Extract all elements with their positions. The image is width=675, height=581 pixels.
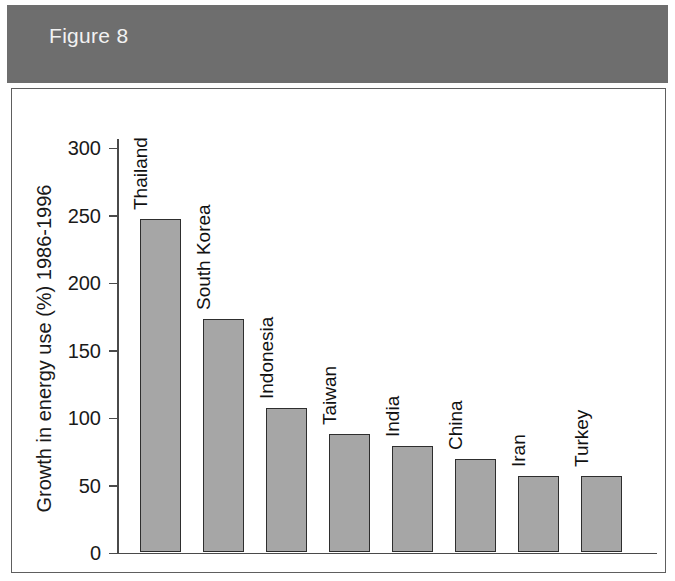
y-tick-label: 50 — [79, 474, 101, 497]
y-tick-250: 250 — [109, 215, 118, 217]
bar-label: Thailand — [130, 137, 152, 210]
y-tick-label: 200 — [68, 272, 101, 295]
figure-header-band: Figure 8 — [7, 5, 668, 83]
y-tick-50: 50 — [109, 485, 118, 487]
y-tick-label: 250 — [68, 204, 101, 227]
bar-south-korea[interactable]: South Korea — [203, 319, 244, 553]
bar-label: China — [445, 401, 467, 451]
bar-indonesia[interactable]: Indonesia — [266, 408, 307, 552]
y-tick-300: 300 — [109, 148, 118, 150]
y-tick-0: 0 — [109, 553, 118, 555]
bar-label: Indonesia — [256, 317, 278, 399]
y-axis-line — [117, 139, 119, 554]
chart-frame: Growth in energy use (%) 1986-1996 05010… — [11, 88, 666, 573]
bar-china[interactable]: China — [455, 459, 496, 552]
figure-root: Figure 8 Growth in energy use (%) 1986-1… — [0, 0, 675, 581]
y-tick-label: 100 — [68, 407, 101, 430]
x-axis-baseline — [117, 553, 657, 555]
bar-iran[interactable]: Iran — [518, 476, 559, 553]
plot-area: Growth in energy use (%) 1986-1996 05010… — [12, 89, 665, 572]
bar-india[interactable]: India — [392, 446, 433, 553]
y-tick-label: 150 — [68, 339, 101, 362]
y-tick-150: 150 — [109, 350, 118, 352]
y-tick-label: 0 — [90, 542, 101, 565]
bar-thailand[interactable]: Thailand — [140, 219, 181, 552]
y-tick-100: 100 — [109, 418, 118, 420]
bar-turkey[interactable]: Turkey — [581, 476, 622, 553]
bar-label: India — [382, 396, 404, 437]
y-axis-title: Growth in energy use (%) 1986-1996 — [33, 149, 56, 549]
figure-caption-label: Figure 8 — [49, 24, 128, 48]
bar-label: Taiwan — [319, 366, 341, 425]
bar-label: Turkey — [571, 409, 593, 466]
bar-label: South Korea — [193, 204, 215, 310]
bar-taiwan[interactable]: Taiwan — [329, 434, 370, 553]
bar-label: Iran — [508, 434, 530, 467]
y-tick-200: 200 — [109, 283, 118, 285]
y-tick-label: 300 — [68, 137, 101, 160]
